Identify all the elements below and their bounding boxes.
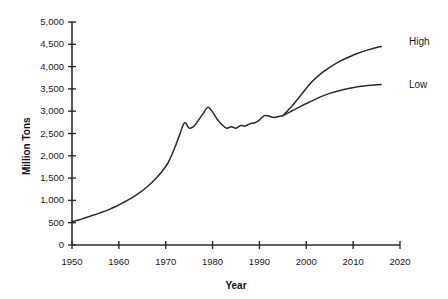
series-label-low: Low [409,80,427,90]
chart-figure: 05001,0001,5002,0002,5003,0003,5004,0004… [0,0,448,299]
x-tick-label: 2010 [343,257,364,267]
y-tick-label: 500 [14,218,64,228]
series-line-historical [72,107,283,222]
x-tick-label: 2000 [296,257,317,267]
data-series-group [72,47,381,222]
x-tick-label: 1990 [249,257,270,267]
x-tick-label: 1960 [108,257,129,267]
y-tick-label: 5,000 [14,17,64,27]
y-tick-label: 4,500 [14,40,64,50]
y-tick-label: 1,000 [14,196,64,206]
line-chart-plot [0,0,448,299]
x-axis-title: Year [225,281,246,291]
series-line-high [283,47,381,116]
x-tick-label: 1970 [155,257,176,267]
x-tick-label: 1980 [202,257,223,267]
y-tick-label: 4,000 [14,62,64,72]
y-axis-title: Million Tons [22,117,32,175]
x-tick-label: 2020 [389,257,410,267]
y-tick-label: 3,000 [14,106,64,116]
series-label-high: High [409,37,430,47]
y-tick-label: 0 [14,240,64,250]
x-tick-label: 1950 [61,257,82,267]
y-tick-label: 3,500 [14,84,64,94]
